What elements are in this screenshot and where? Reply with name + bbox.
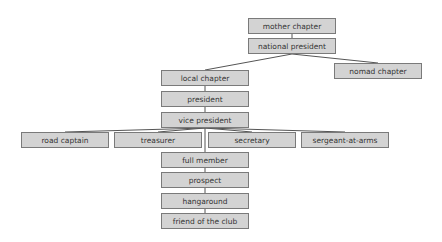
connector-line [292,54,378,63]
node-president: president [161,91,249,107]
node-secretary: secretary [208,132,296,148]
node-national-president: national president [248,38,336,54]
node-vice-president: vice president [161,112,249,128]
node-prospect: prospect [161,172,249,188]
node-road-captain: road captain [21,132,109,148]
node-hangaround: hangaround [161,193,249,209]
node-full-member: full member [161,152,249,168]
org-chart-diagram: mother chapter national president local … [0,0,442,242]
node-sergeant-at-arms: sergeant-at-arms [301,132,389,148]
node-treasurer: treasurer [114,132,202,148]
node-friend-of-the-club: friend of the club [161,213,249,229]
node-nomad-chapter: nomad chapter [334,63,422,79]
node-mother-chapter: mother chapter [248,18,336,34]
node-local-chapter: local chapter [161,70,249,86]
connector-line [205,54,292,70]
